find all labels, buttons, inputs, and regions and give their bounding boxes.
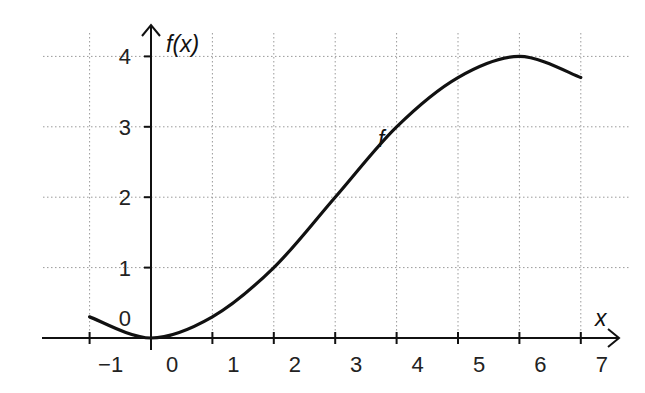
function-graph: −10123456701234 f(x) x f [0, 0, 645, 393]
x-tick-label: −1 [98, 352, 123, 377]
y-tick-label: 2 [119, 185, 131, 210]
x-tick-label: 5 [473, 352, 485, 377]
grid-lines [43, 33, 630, 338]
x-axis-label: x [594, 305, 608, 331]
x-tick-label: 7 [596, 352, 608, 377]
y-tick-label: 4 [119, 44, 131, 69]
axis-ticks [90, 56, 581, 344]
y-axis-label: f(x) [166, 31, 199, 57]
x-tick-label: 6 [534, 352, 546, 377]
x-tick-label: 0 [166, 352, 178, 377]
y-tick-label: 1 [119, 256, 131, 281]
y-tick-label: 3 [119, 115, 131, 140]
tick-labels: −10123456701234 [98, 44, 608, 377]
x-tick-label: 2 [289, 352, 301, 377]
x-tick-label: 4 [411, 352, 423, 377]
y-tick-label: 0 [119, 306, 131, 331]
x-tick-label: 3 [350, 352, 362, 377]
x-tick-label: 1 [227, 352, 239, 377]
